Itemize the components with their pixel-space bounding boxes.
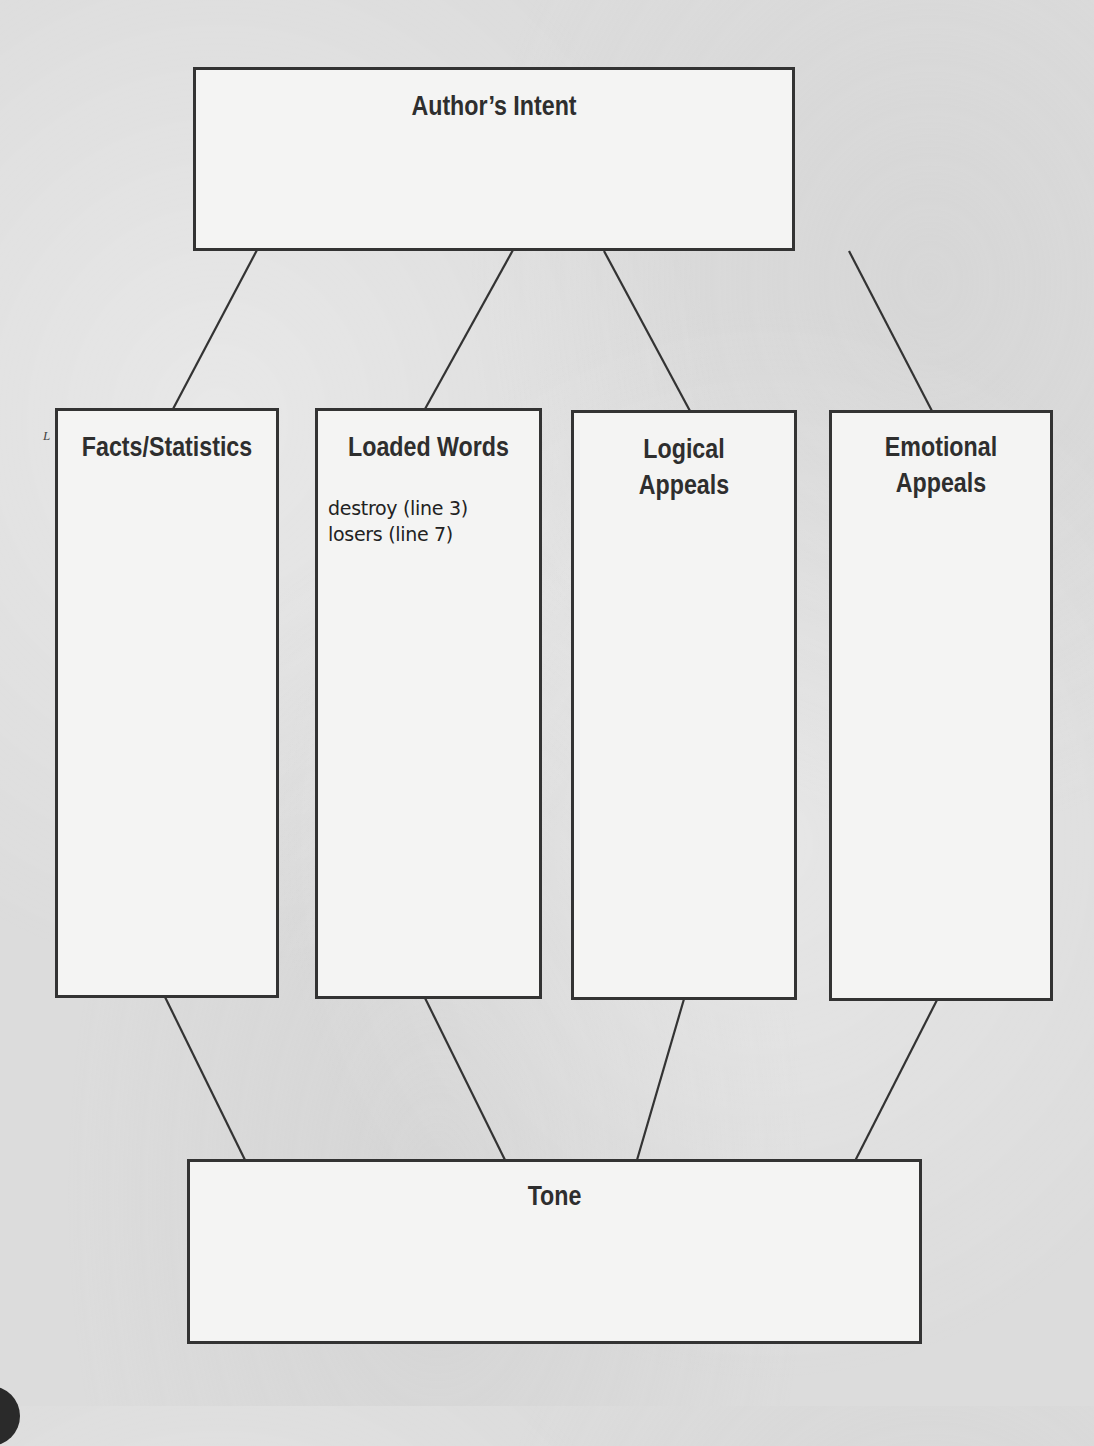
connector-intent-logical (604, 251, 690, 411)
logical-appeals-title: Logical Appeals (589, 431, 778, 503)
loaded-words-box: Loaded Words destroy (line 3) losers (li… (315, 408, 542, 999)
margin-mark: L (43, 428, 50, 444)
connector-intent-loaded (425, 250, 513, 409)
loaded-words-title: Loaded Words (333, 429, 523, 465)
emotional-appeals-title: Emotional Appeals (847, 429, 1034, 501)
authors-intent-title: Author’s Intent (238, 88, 751, 124)
emotional-appeals-box: Emotional Appeals (829, 410, 1053, 1001)
tone-box: Tone (187, 1159, 922, 1344)
connector-loaded-tone (425, 998, 505, 1160)
connector-emotional-tone (855, 1000, 937, 1161)
loaded-words-entries: destroy (line 3) losers (line 7) (328, 495, 533, 547)
logical-appeals-box: Logical Appeals (571, 410, 797, 1000)
connector-logical-tone (637, 999, 684, 1160)
loaded-word-entry: losers (line 7) (328, 521, 533, 547)
page-corner-shadow (0, 1386, 20, 1446)
connector-intent-emotional (849, 251, 932, 411)
tone-title: Tone (241, 1178, 868, 1214)
connector-facts-tone (165, 997, 245, 1160)
loaded-word-entry: destroy (line 3) (328, 495, 533, 521)
facts-statistics-box: Facts/Statistics (55, 408, 279, 998)
connector-intent-facts (173, 250, 257, 409)
facts-statistics-title: Facts/Statistics (73, 429, 260, 465)
authors-intent-box: Author’s Intent (193, 67, 795, 251)
